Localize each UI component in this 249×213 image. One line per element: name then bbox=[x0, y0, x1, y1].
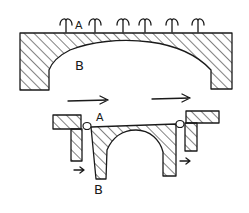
label-bottom-B: B bbox=[94, 182, 103, 197]
arrow-right-icon bbox=[68, 96, 108, 104]
hinge-right-icon bbox=[176, 121, 184, 128]
sprout-icon bbox=[89, 19, 101, 32]
label-top-A: A bbox=[75, 19, 83, 32]
flow-arrows bbox=[68, 94, 190, 104]
top-arch-structure bbox=[20, 33, 232, 90]
bottom-structure bbox=[53, 111, 219, 179]
sprout-icon bbox=[117, 19, 129, 32]
arrow-right-icon bbox=[74, 167, 84, 173]
sprout-icon bbox=[139, 19, 151, 32]
arrow-right-icon bbox=[180, 158, 190, 164]
center-arch bbox=[91, 124, 176, 179]
hinge-left-icon bbox=[83, 123, 91, 130]
left-cap bbox=[53, 115, 81, 129]
label-top-B: B bbox=[75, 58, 84, 73]
left-post bbox=[71, 129, 82, 161]
sprout-icon bbox=[166, 19, 178, 32]
label-bottom-A: A bbox=[96, 111, 104, 124]
right-post bbox=[185, 123, 197, 151]
diagram-canvas: A B A B bbox=[0, 0, 249, 213]
sprout-icon bbox=[192, 19, 204, 32]
arch-body bbox=[20, 33, 232, 90]
arrow-right-icon bbox=[152, 94, 190, 102]
sprout-icon bbox=[60, 19, 72, 32]
right-cap bbox=[186, 111, 219, 123]
